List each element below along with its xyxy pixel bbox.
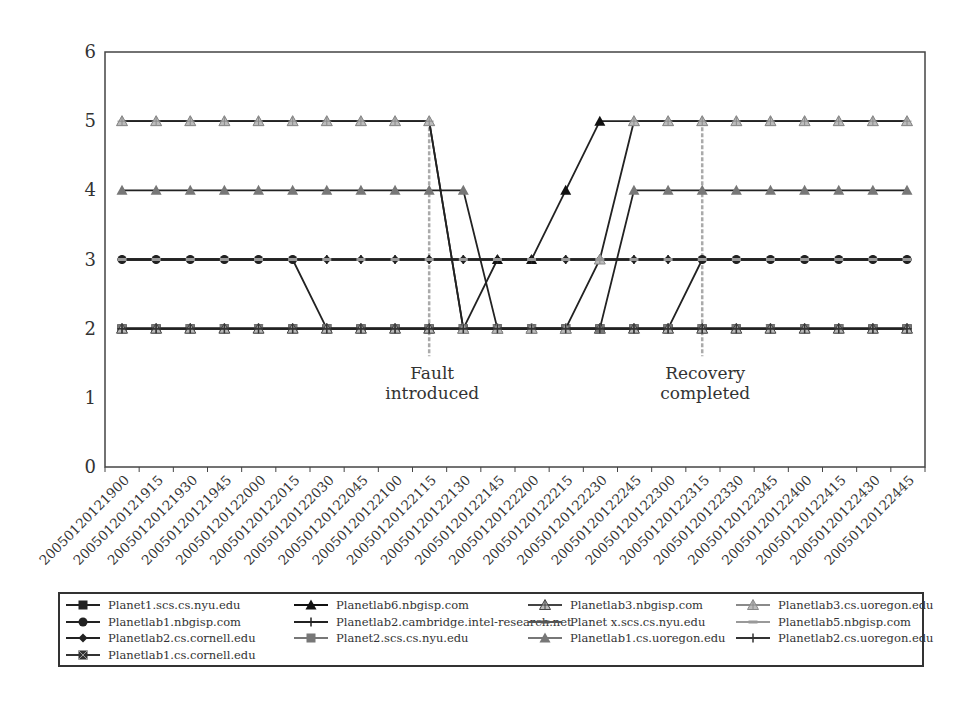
series-planetlab5-nbgisp-com xyxy=(118,258,912,261)
legend-column: Planetlab3.nbgisp.comPlanet x.scs.cs.nyu… xyxy=(528,597,726,647)
data-point xyxy=(540,600,551,610)
data-point xyxy=(867,116,878,126)
legend: Planet1.scs.cs.nyu.eduPlanetlab1.nbgisp.… xyxy=(58,592,924,667)
data-point xyxy=(749,620,758,623)
legend-label: Planetlab3.cs.uoregon.edu xyxy=(778,598,934,612)
legend-label: Planetlab1.cs.uoregon.edu xyxy=(570,631,726,645)
data-point xyxy=(868,258,877,261)
series-planetlab6-nbgisp-com xyxy=(117,116,913,334)
legend-marker-icon xyxy=(66,615,100,629)
data-point xyxy=(79,601,88,610)
data-point xyxy=(697,116,708,126)
data-point xyxy=(749,634,758,643)
x-axis: 2005012012190020050120121915200501201219… xyxy=(36,467,925,568)
data-point xyxy=(391,258,400,261)
series-group xyxy=(117,116,913,334)
legend-label: Planet x.scs.cs.nyu.edu xyxy=(570,615,705,629)
legend-label: Planetlab1.cs.cornell.edu xyxy=(108,648,256,662)
data-point xyxy=(459,258,468,261)
y-tick-label: 2 xyxy=(85,318,96,339)
annotations: FaultintroducedRecoverycompleted xyxy=(385,121,750,403)
data-point xyxy=(629,258,638,261)
legend-item: Planetlab1.nbgisp.com xyxy=(66,614,256,631)
y-tick-label: 6 xyxy=(85,41,96,62)
data-point xyxy=(322,258,331,261)
data-point xyxy=(185,116,196,126)
legend-item: Planet1.scs.cs.nyu.edu xyxy=(66,597,256,614)
data-point xyxy=(765,116,776,126)
data-point xyxy=(731,116,742,126)
legend-marker-icon xyxy=(528,598,562,612)
series-planetlab3-cs-uoregon-edu xyxy=(117,116,913,334)
legend-item: Planetlab5.nbgisp.com xyxy=(736,614,934,631)
data-point xyxy=(219,116,230,126)
legend-label: Planet2.scs.cs.nyu.edu xyxy=(336,631,469,645)
data-point xyxy=(663,116,674,126)
data-point xyxy=(800,258,809,261)
data-point xyxy=(541,620,550,623)
series-line xyxy=(122,121,907,329)
data-point xyxy=(355,116,366,126)
data-point xyxy=(833,116,844,126)
data-point xyxy=(732,258,741,261)
legend-marker-icon xyxy=(66,648,100,662)
data-point xyxy=(903,258,912,261)
data-point xyxy=(118,258,127,261)
legend-column: Planetlab3.cs.uoregon.eduPlanetlab5.nbgi… xyxy=(736,597,934,647)
data-point xyxy=(307,634,316,643)
y-axis: 0123456 xyxy=(85,41,96,477)
data-point xyxy=(560,185,571,195)
series-planetlab1-nbgisp-com xyxy=(118,255,912,333)
legend-label: Planetlab5.nbgisp.com xyxy=(778,615,911,629)
legend-item: Planet x.scs.cs.nyu.edu xyxy=(528,614,726,631)
annotation-label: Fault xyxy=(410,363,454,383)
data-point xyxy=(321,116,332,126)
legend-column: Planet1.scs.cs.nyu.eduPlanetlab1.nbgisp.… xyxy=(66,597,256,663)
data-point xyxy=(698,258,707,261)
data-point xyxy=(390,116,401,126)
y-tick-label: 5 xyxy=(85,110,96,131)
y-tick-label: 1 xyxy=(85,387,96,408)
data-point xyxy=(79,650,88,659)
legend-marker-icon xyxy=(294,615,328,629)
legend-item: Planetlab3.nbgisp.com xyxy=(528,597,726,614)
data-point xyxy=(151,116,162,126)
legend-marker-icon xyxy=(736,615,770,629)
data-point xyxy=(664,258,673,261)
legend-label: Planetlab1.nbgisp.com xyxy=(108,615,241,629)
data-point xyxy=(356,258,365,261)
data-point xyxy=(748,600,759,610)
data-point xyxy=(595,258,604,261)
data-point xyxy=(186,258,195,261)
annotation-label: introduced xyxy=(385,383,479,403)
data-point xyxy=(799,116,810,126)
data-point xyxy=(766,258,775,261)
data-point xyxy=(254,258,263,261)
annotation-label: completed xyxy=(660,383,750,403)
legend-label: Planetlab3.nbgisp.com xyxy=(570,598,703,612)
data-point xyxy=(493,258,502,261)
legend-marker-icon xyxy=(736,598,770,612)
data-point xyxy=(152,258,161,261)
data-point xyxy=(307,617,316,626)
data-point xyxy=(834,258,843,261)
legend-label: Planetlab6.nbgisp.com xyxy=(336,598,469,612)
data-point xyxy=(79,634,88,643)
legend-item: Planetlab3.cs.uoregon.edu xyxy=(736,597,934,614)
y-tick-label: 4 xyxy=(85,179,96,200)
y-tick-label: 3 xyxy=(85,249,96,270)
series-line xyxy=(122,121,907,329)
legend-item: Planetlab1.cs.uoregon.edu xyxy=(528,630,726,647)
legend-marker-icon xyxy=(528,631,562,645)
data-point xyxy=(425,258,434,261)
data-point xyxy=(117,116,128,126)
legend-marker-icon xyxy=(294,631,328,645)
legend-marker-icon xyxy=(294,598,328,612)
legend-item: Planetlab2.cs.cornell.edu xyxy=(66,630,256,647)
legend-marker-icon xyxy=(66,631,100,645)
legend-label: Planetlab2.cs.uoregon.edu xyxy=(778,631,934,645)
data-point xyxy=(288,258,297,261)
legend-marker-icon xyxy=(528,615,562,629)
data-point xyxy=(253,116,264,126)
series-planetlab2-cs-uoregon-edu xyxy=(118,324,912,333)
